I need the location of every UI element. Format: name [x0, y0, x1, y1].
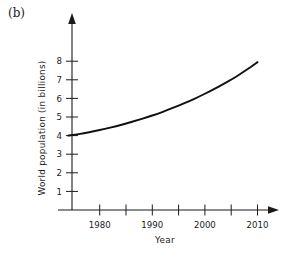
y-tick-label: 2	[57, 168, 62, 178]
y-axis-arrow-icon	[68, 13, 76, 24]
figure-panel: (b) 8 7 6 5 4 3 2 1	[0, 0, 290, 262]
y-tick-label: 7	[57, 75, 62, 85]
x-axis-title: Year	[154, 235, 175, 245]
y-tick-label: 8	[57, 56, 62, 66]
y-axis-tick-labels: 8 7 6 5 4 3 2 1	[57, 56, 62, 196]
y-tick-label: 5	[57, 112, 62, 122]
x-tick-label: 2010	[247, 220, 269, 230]
y-axis-title: World population (in billions)	[37, 60, 47, 195]
x-tick-label: 2000	[194, 220, 216, 230]
x-tick-label: 1980	[89, 220, 111, 230]
population-line-chart: 8 7 6 5 4 3 2 1 1980 1990 2000 2010	[0, 0, 290, 262]
y-tick-label: 4	[57, 131, 62, 141]
y-tick-label: 1	[57, 187, 62, 197]
y-tick-label: 3	[57, 149, 62, 159]
population-curve	[68, 62, 257, 135]
x-axis-arrow-icon	[268, 206, 279, 214]
y-tick-label: 6	[57, 94, 62, 104]
x-tick-label: 1990	[141, 220, 163, 230]
x-axis-tick-labels: 1980 1990 2000 2010	[89, 220, 269, 230]
